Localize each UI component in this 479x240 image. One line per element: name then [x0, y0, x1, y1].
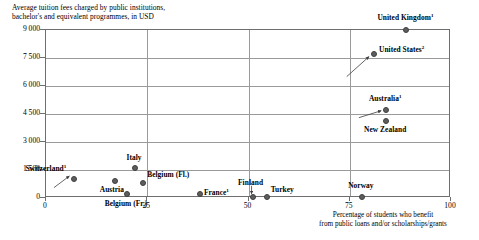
gridline-horizontal	[46, 114, 449, 115]
y-axis-tick-label: 3 000	[0, 136, 40, 145]
x-axis-tick-label: 0	[25, 201, 65, 210]
gridline-horizontal	[46, 142, 449, 143]
data-point-label: Austria	[100, 185, 124, 194]
data-point	[383, 118, 389, 124]
data-point-label: United States2	[379, 45, 424, 54]
data-point-label: Australia1	[369, 94, 402, 103]
data-point	[124, 191, 130, 197]
data-point-label: Belgium (Fl.)	[147, 170, 189, 179]
x-axis-tick-mark	[450, 197, 451, 201]
data-point	[197, 191, 203, 197]
data-point	[264, 194, 270, 200]
y-axis-tick-label: 6 000	[0, 80, 40, 89]
footnote-marker: 1	[226, 188, 229, 193]
x-axis-tick-label: 100	[430, 201, 470, 210]
x-axis-title-line-2: from public loans and/or scholarships/gr…	[288, 220, 478, 229]
gridline-horizontal	[46, 58, 449, 59]
y-axis-tick-label: 9 000	[0, 24, 40, 33]
x-axis-tick-mark	[45, 197, 46, 201]
data-point-label: Belgium (Fr.)	[105, 199, 148, 208]
chart-title: Average tuition fees charged by public i…	[12, 3, 312, 21]
data-point	[403, 27, 409, 33]
gridline-horizontal	[46, 86, 449, 87]
y-axis-tick-label: 4 500	[0, 108, 40, 117]
x-axis-tick-label: 50	[228, 201, 268, 210]
data-point-label: Norway	[348, 181, 373, 190]
data-point-label: Turkey	[271, 185, 294, 194]
data-point-label: United Kingdom1	[377, 13, 433, 22]
data-point	[71, 176, 77, 182]
data-point-label: New Zealand	[364, 125, 406, 134]
data-point-label: Finland	[238, 178, 263, 187]
data-point	[112, 178, 118, 184]
x-axis-tick-label: 75	[329, 201, 369, 210]
x-axis-tick-mark	[349, 197, 350, 201]
footnote-marker: 1	[64, 164, 67, 169]
footnote-marker: 1	[399, 94, 402, 99]
footnote-marker: 2	[422, 45, 425, 50]
data-point	[359, 194, 365, 200]
y-axis-tick-label: 7 500	[0, 52, 40, 61]
data-point	[140, 180, 146, 186]
gridline-horizontal	[46, 170, 449, 171]
gridline-vertical	[350, 30, 351, 196]
chart-title-line-1: Average tuition fees charged by public i…	[12, 3, 312, 12]
chart-figure: Average tuition fees charged by public i…	[0, 0, 479, 240]
x-axis-tick-mark	[248, 197, 249, 201]
gridline-vertical	[249, 30, 250, 196]
data-point	[250, 194, 256, 200]
data-point	[371, 51, 377, 57]
x-axis-title: Percentage of students who benefit from …	[288, 211, 478, 229]
y-axis-tick-label: 0	[0, 192, 40, 201]
x-axis-title-line-1: Percentage of students who benefit	[288, 211, 478, 220]
footnote-marker: 1	[431, 13, 434, 18]
chart-title-line-2: bachelor's and equivalent programmes, in…	[12, 12, 312, 21]
data-point-label: Switzerland1	[25, 164, 66, 173]
data-point-label: Italy	[127, 153, 142, 162]
data-point-label: France1	[204, 188, 229, 197]
data-point	[383, 107, 389, 113]
